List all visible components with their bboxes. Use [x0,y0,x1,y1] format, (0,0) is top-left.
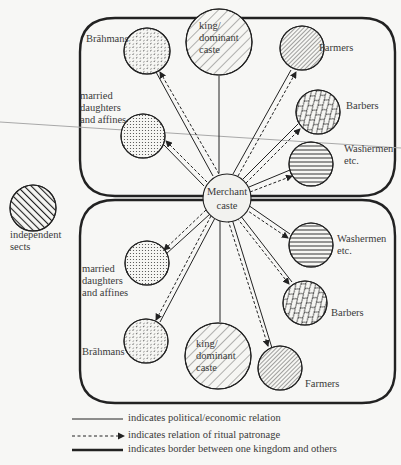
lower-washermen-label-1: Washermen [337,233,386,245]
legend-border-label: indicates border between one kingdom and… [128,443,337,454]
lower-nodes [124,223,333,390]
legend-lines [72,419,125,450]
independent-label-2: sects [10,241,30,253]
independent-label-1: independent [10,229,61,241]
lower-married-label-1: married [82,263,115,275]
upper-farmers-label: Farmers [319,42,353,54]
merchant-label-2: caste [203,200,251,212]
lower-married-label-2: daughters [82,275,123,287]
lower-king-label-1: king/ [196,338,218,350]
lower-washermen-label-2: etc. [337,245,352,257]
lower-farmers-label: Farmers [305,378,339,390]
merchant-caste-node [203,174,251,222]
upper-king-label-2: dominant [199,32,239,44]
lower-married-label-3: and affines [82,287,128,299]
upper-barbers-label: Barbers [346,100,379,112]
stray-line [0,122,401,148]
lower-brahmans-label: Brāhmans [82,346,125,358]
lower-king-label-2: dominant [196,350,236,362]
upper-married-label-1: married [80,90,113,102]
upper-brahmans-label: Brāhmans [86,33,129,45]
upper-king-label-3: caste [199,44,220,56]
legend-solid-label: indicates political/economic relation [128,412,281,423]
lower-barbers-label: Barbers [331,307,364,319]
upper-king-label-1: king/ [199,20,221,32]
merchant-label-1: Merchant [203,186,251,198]
legend-dashed-label: indicates relation of ritual patronage [128,429,280,440]
upper-married-label-2: daughters [80,102,121,114]
upper-married-label-3: and affines [80,114,126,126]
lower-king-label-3: caste [196,362,217,374]
upper-washermen-label-2: etc. [344,155,359,167]
upper-washermen-label-1: Washermen [344,143,393,155]
